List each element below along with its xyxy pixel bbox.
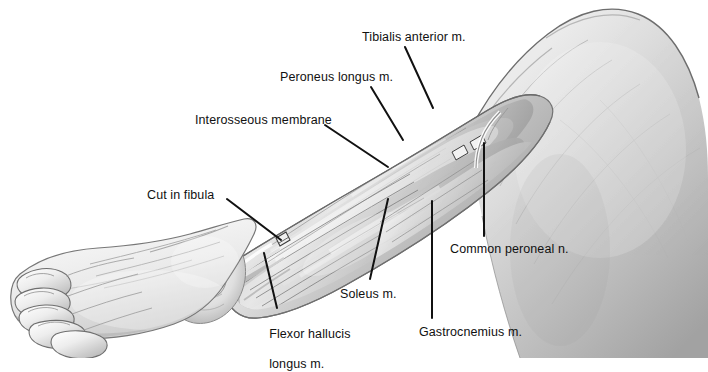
label-soleus: Soleus m. — [340, 287, 396, 302]
label-peroneus-longus: Peroneus longus m. — [280, 70, 393, 85]
label-interosseous-membrane: Interosseous membrane — [195, 113, 332, 128]
label-tibialis-anterior: Tibialis anterior m. — [362, 30, 466, 45]
label-common-peroneal-nerve: Common peroneal n. — [450, 242, 569, 257]
label-flexor-hallucis-longus-line1: Flexor hallucis — [269, 327, 350, 341]
label-cut-in-fibula: Cut in fibula — [147, 188, 214, 203]
label-flexor-hallucis-longus: Flexor hallucis longus m. — [262, 312, 351, 372]
label-gastrocnemius: Gastrocnemius m. — [419, 325, 522, 340]
label-flexor-hallucis-longus-line2: longus m. — [269, 357, 324, 371]
